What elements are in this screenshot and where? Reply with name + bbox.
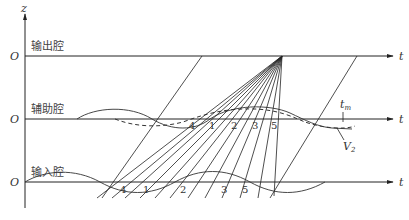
origin-label-output: O (10, 50, 19, 63)
aux-num-1: 1 (209, 120, 215, 131)
v2-label: V2 (343, 140, 356, 154)
input-num-4: 4 (120, 184, 126, 195)
input-num-3: 3 (221, 184, 227, 195)
input-num-1: 1 (143, 184, 149, 195)
z-axis-label: z (20, 2, 27, 15)
aux-num-3: 3 (252, 120, 258, 131)
input-bunch-numbers: 4 1 2 3 5 (120, 184, 248, 195)
output-cavity-label: 输出腔 (31, 39, 64, 53)
input-num-2: 2 (180, 184, 186, 195)
output-cavity-axis: O 输出腔 t (10, 39, 404, 63)
z-axis: z (20, 2, 27, 208)
input-num-5: 5 (242, 184, 248, 195)
origin-label-aux: O (10, 113, 19, 126)
aux-bunch-numbers: 4 1 2 3 5 (189, 120, 277, 131)
tm-annotation: tm (340, 98, 351, 122)
applegate-diagram: z O 输出腔 t O 辅助腔 t O 输入腔 t (0, 0, 409, 220)
v2-annotation: V2 (337, 128, 356, 154)
tm-label: tm (340, 98, 351, 112)
electron-trajectories (97, 56, 357, 198)
aux-num-2: 2 (231, 120, 237, 131)
t-label-aux: t (399, 113, 404, 126)
t-label-output: t (399, 50, 404, 63)
t-label-input: t (399, 176, 404, 189)
aux-cavity-label: 辅助腔 (31, 102, 64, 116)
aux-num-5: 5 (271, 120, 277, 131)
origin-label-input: O (10, 176, 19, 189)
aux-num-4: 4 (189, 120, 195, 131)
